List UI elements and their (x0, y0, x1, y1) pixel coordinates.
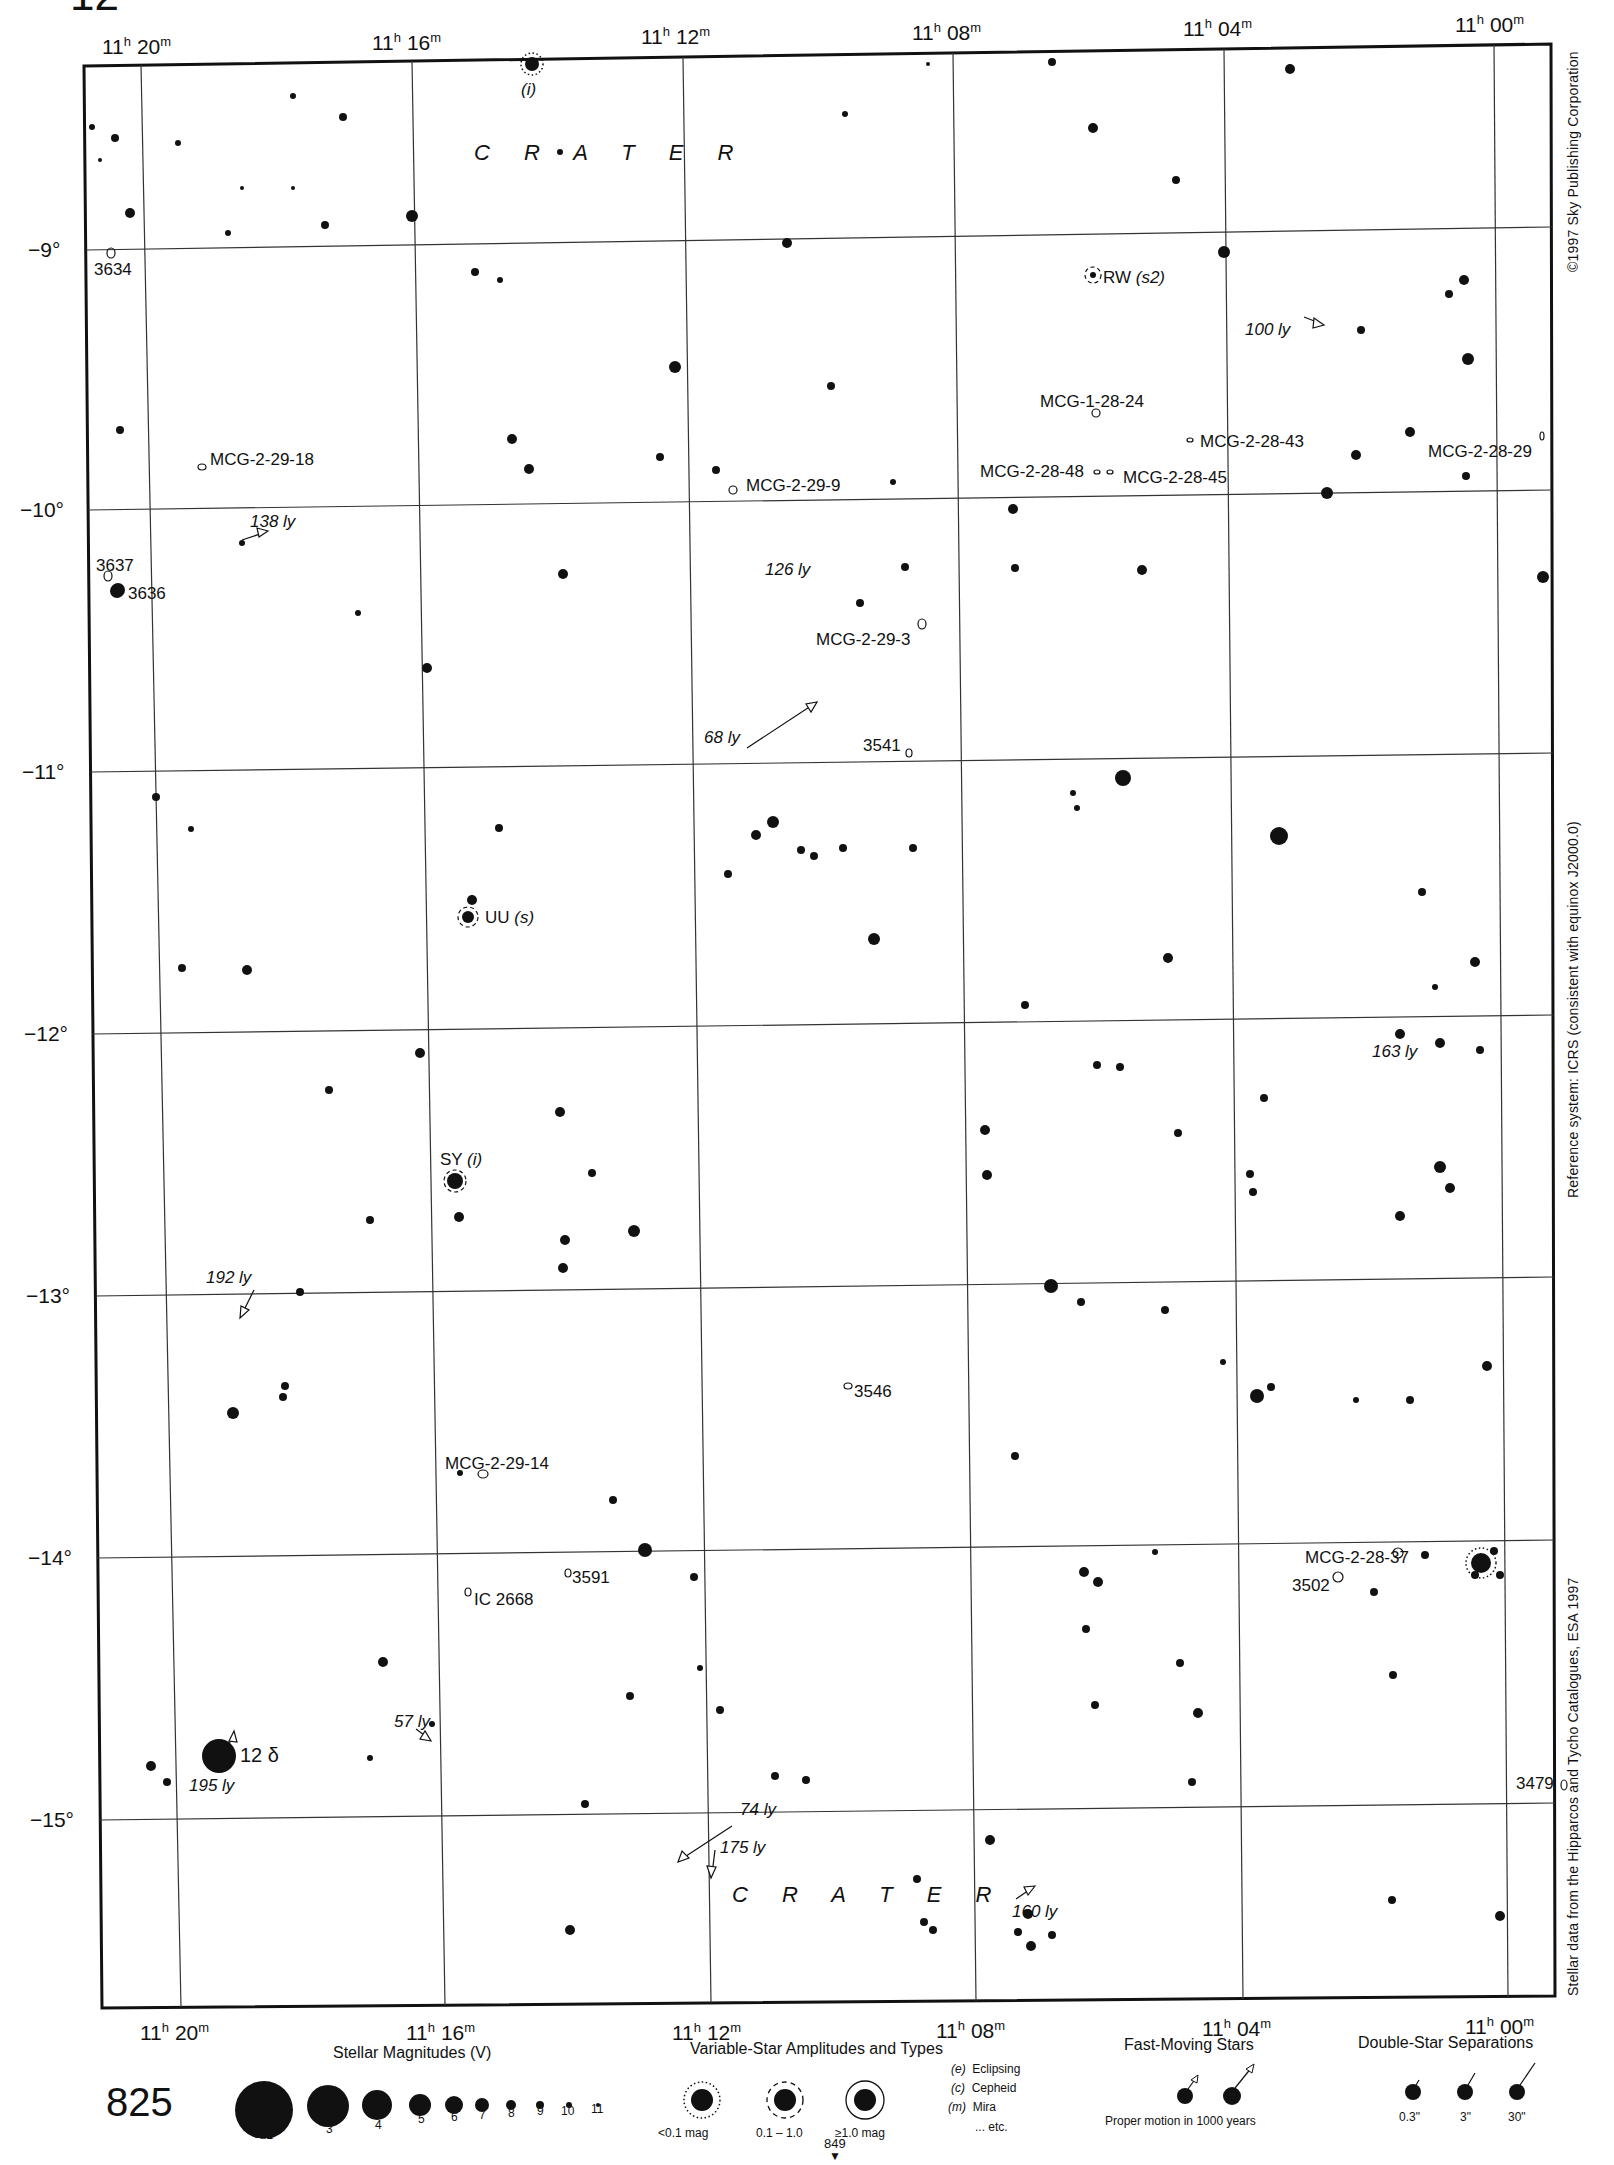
distance-57ly: 57 ly (394, 1712, 430, 1732)
label-ngc3479: 3479 (1516, 1774, 1554, 1794)
atlas-chart-number: 12 (70, 0, 119, 20)
label-variable-sy: SY (i) (440, 1150, 482, 1170)
dec-label-10: −10° (20, 498, 64, 522)
ra-label-top-1120: 11h 20m (102, 34, 171, 59)
label-mcg-2-28-48: MCG-2-28-48 (980, 462, 1084, 482)
dec-label-12: −12° (24, 1022, 68, 1046)
distance-68ly: 68 ly (704, 728, 740, 748)
type-cepheid: (c) Cepheid (951, 2081, 1016, 2095)
ra-label-top-1116: 11h 16m (372, 30, 441, 55)
distance-163ly: 163 ly (1372, 1042, 1417, 1062)
down-arrow-icon: ▼ (824, 2151, 846, 2161)
star-chart (0, 0, 1614, 2165)
ra-label-bottom-1120: 11h 20m (140, 2020, 209, 2045)
mag-label-6: 6 (451, 2110, 458, 2124)
label-ngc3546: 3546 (854, 1382, 892, 1402)
constellation-label-top: C R A T E R (474, 140, 747, 166)
mag-label-7: 7 (479, 2108, 486, 2122)
ra-label-bottom-1108: 11h 08m (936, 2018, 1005, 2043)
copyright-text: ©1997 Sky Publishing Corporation (1565, 51, 1581, 272)
type-eclipsing: (e) Eclipsing (951, 2062, 1020, 2076)
mag-label-9: 9 (537, 2104, 544, 2118)
mag-label-8: 8 (508, 2106, 515, 2120)
ra-label-bottom-1116: 11h 16m (406, 2020, 475, 2045)
dec-label-13: −13° (26, 1284, 70, 1308)
star-12-delta (202, 1739, 236, 1773)
ra-gridlines (141, 45, 1508, 2007)
label-ngc3636: 3636 (128, 584, 166, 604)
mag-label-4: 4 (375, 2118, 382, 2132)
ra-label-top-1108: 11h 08m (912, 20, 981, 45)
distance-74ly: 74 ly (740, 1800, 776, 1820)
double-sep-3: 3" (1460, 2110, 1471, 2124)
label-variable-i-top: (i) (521, 80, 536, 100)
label-ngc3634: 3634 (94, 260, 132, 280)
amp-label-mid: 0.1 – 1.0 (756, 2126, 803, 2140)
type-mira: (m) Mira (948, 2100, 996, 2114)
legend-double-star-title: Double-Star Separations (1358, 2034, 1533, 2052)
mag-label-3: 3 (326, 2122, 333, 2136)
label-ngc3591: 3591 (572, 1568, 610, 1588)
double-sep-30: 30" (1508, 2110, 1526, 2124)
label-mcg-2-29-14: MCG-2-29-14 (445, 1454, 549, 1474)
fast-moving-caption: Proper motion in 1000 years (1105, 2114, 1256, 2128)
distance-100ly: 100 ly (1245, 320, 1290, 340)
star-3636 (111, 583, 125, 597)
page-number: 825 (106, 2080, 173, 2125)
label-variable-uu: UU (s) (485, 908, 534, 928)
proper-motion-arrows (227, 317, 1324, 1899)
next-chart-link[interactable]: 849 ▼ (824, 2136, 846, 2161)
distance-195ly: 195 ly (189, 1776, 234, 1796)
label-ngc3637: 3637 (96, 556, 134, 576)
constellation-label-bottom: C R A T E R (732, 1882, 1005, 1908)
legend-magnitude-dots (230, 2078, 610, 2138)
legend-variables-title: Variable-Star Amplitudes and Types (690, 2040, 943, 2058)
dec-label-15: −15° (30, 1808, 74, 1832)
dec-label-14: −14° (28, 1546, 72, 1570)
label-mcg-1-28-24: MCG-1-28-24 (1040, 392, 1144, 412)
label-mcg-2-28-45: MCG-2-28-45 (1123, 468, 1227, 488)
legend-variable-symbols (680, 2075, 900, 2125)
type-etc: ... etc. (975, 2120, 1008, 2134)
label-mcg-2-29-18: MCG-2-29-18 (210, 450, 314, 470)
ra-label-top-1104: 11h 04m (1183, 16, 1252, 41)
label-mcg-2-28-29: MCG-2-28-29 (1428, 442, 1532, 462)
chart-frame (84, 44, 1555, 2008)
label-mcg-2-29-9: MCG-2-29-9 (746, 476, 840, 496)
distance-138ly: 138 ly (250, 512, 295, 532)
dec-label-9: −9° (28, 238, 60, 262)
distance-192ly: 192 ly (206, 1268, 251, 1288)
star-field (89, 57, 1549, 1951)
label-ic2668: IC 2668 (474, 1590, 534, 1610)
mag-label-11: 11 (591, 2102, 603, 2116)
distance-126ly: 126 ly (765, 560, 810, 580)
amp-label-low: <0.1 mag (658, 2126, 708, 2140)
ra-label-top-1100: 11h 00m (1455, 12, 1524, 37)
distance-160ly: 160 ly (1012, 1902, 1057, 1922)
legend-fast-moving-symbols (1160, 2060, 1260, 2110)
label-variable-rw: RW (s2) (1103, 268, 1165, 288)
mag-label-10: 10 (561, 2104, 574, 2118)
ra-label-top-1112: 11h 12m (641, 24, 710, 49)
dec-label-11: −11° (22, 760, 64, 784)
legend-magnitudes-title: Stellar Magnitudes (V) (333, 2044, 491, 2062)
label-mcg-2-29-3: MCG-2-29-3 (816, 630, 910, 650)
legend-double-star-symbols (1395, 2058, 1555, 2108)
legend-fast-moving-title: Fast-Moving Stars (1124, 2036, 1254, 2054)
label-ngc3502: 3502 (1292, 1576, 1330, 1596)
label-mcg-2-28-37: MCG-2-28-37 (1305, 1548, 1409, 1568)
mag-label-2: ≤2 (260, 2128, 273, 2142)
mag-label-5: 5 (418, 2112, 425, 2126)
variable-star-markers (444, 53, 1496, 1578)
stellar-data-source-text: Stellar data from the Hipparcos and Tych… (1565, 1578, 1581, 1996)
label-12-delta: 12 δ (240, 1744, 279, 1767)
distance-175ly: 175 ly (720, 1838, 765, 1858)
label-mcg-2-28-43: MCG-2-28-43 (1200, 432, 1304, 452)
double-sep-03: 0.3" (1399, 2110, 1420, 2124)
label-ngc3541: 3541 (863, 736, 901, 756)
reference-system-text: Reference system: ICRS (consistent with … (1565, 821, 1581, 1198)
